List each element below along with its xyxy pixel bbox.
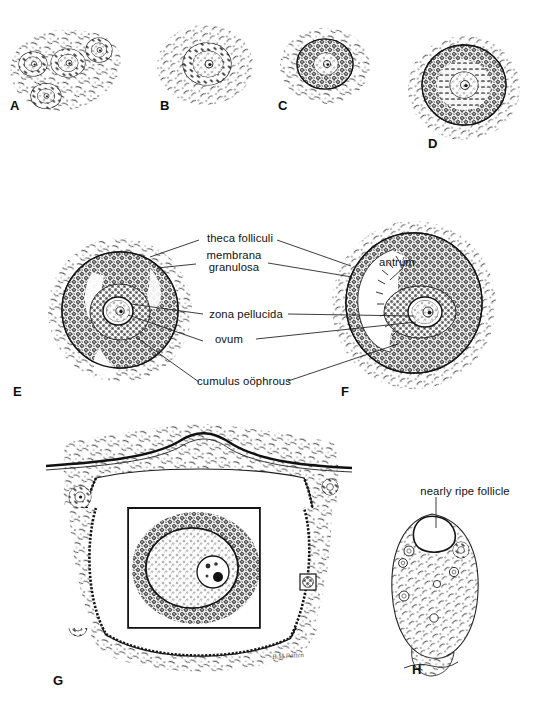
- panel-g-artwork: [0, 424, 380, 688]
- panel-letter-c: C: [278, 98, 288, 113]
- panel-letter-g: G: [53, 673, 63, 688]
- panel-f-artwork: [332, 221, 496, 389]
- panel-letter-a: A: [10, 98, 20, 113]
- label-membrana-line1: membrana: [207, 249, 262, 261]
- label-cumulus-oophrous: cumulus oöphrous: [197, 375, 291, 387]
- label-antrum: antrum: [379, 256, 415, 268]
- panel-c-artwork: [280, 28, 370, 104]
- panel-letter-b: B: [160, 98, 170, 113]
- plate-artwork: [0, 0, 540, 706]
- panel-letter-e: E: [13, 384, 22, 399]
- panel-h-artwork: [392, 514, 478, 676]
- panel-a-artwork: [10, 30, 120, 111]
- panel-letter-d: D: [428, 136, 438, 151]
- label-ovum: ovum: [215, 333, 243, 345]
- histology-plate: A B C D E F G H theca folliculi membrana…: [0, 0, 540, 706]
- label-nearly-ripe-follicle: nearly ripe follicle: [420, 485, 509, 497]
- panel-letter-f: F: [341, 384, 349, 399]
- label-membrana-line2: granulosa: [207, 261, 262, 273]
- panel-d-artwork: [408, 36, 520, 140]
- panel-b-artwork: [157, 25, 253, 105]
- label-zona-pellucida: zona pellucida: [209, 308, 283, 320]
- panel-e-artwork: [48, 238, 192, 382]
- label-theca-folliculi: theca folliculi: [207, 232, 273, 244]
- label-membrana-granulosa: membrana granulosa: [207, 249, 262, 274]
- panel-letter-h: H: [412, 662, 422, 677]
